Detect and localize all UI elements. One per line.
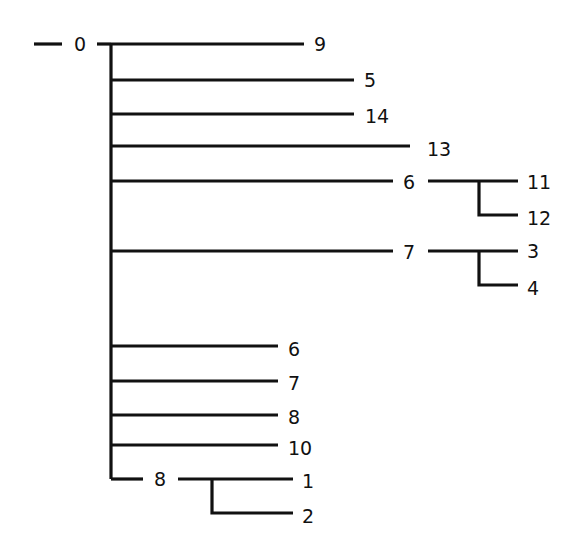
node-label-6-lower: 6	[288, 338, 300, 360]
node-label-7-lower: 7	[288, 372, 300, 394]
node-label-5: 5	[364, 69, 376, 91]
tree-edges	[34, 44, 518, 513]
node-label-3: 3	[527, 240, 539, 262]
node-label-7-upper: 7	[403, 241, 415, 263]
node-label-2: 2	[302, 505, 314, 527]
node-label-10: 10	[288, 437, 312, 459]
node-label-12: 12	[527, 207, 551, 229]
node-label-9: 9	[314, 33, 326, 55]
node-label-14: 14	[365, 105, 389, 127]
node-label-4: 4	[527, 277, 539, 299]
edge-6a-to-12	[479, 181, 518, 215]
edge-7a-to-4	[479, 251, 518, 285]
node-label-13: 13	[427, 138, 451, 160]
node-label-6-upper: 6	[403, 171, 415, 193]
node-label-0: 0	[74, 33, 86, 55]
node-label-8-bottom: 8	[154, 468, 166, 490]
node-label-1: 1	[302, 470, 314, 492]
node-label-11: 11	[527, 171, 551, 193]
node-label-8-lower: 8	[288, 406, 300, 428]
edge-8c-to-2	[212, 479, 293, 513]
tree-diagram: 0 9 5 14 13 6 11 12 7 3 4 6 7 8 10 8 1 2	[0, 0, 572, 546]
